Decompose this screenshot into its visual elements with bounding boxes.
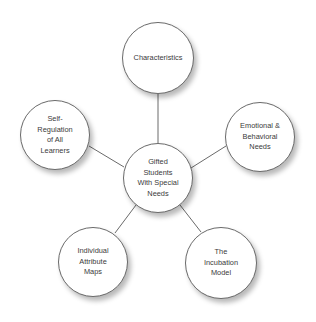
connector-individual: [115, 205, 136, 233]
node-label: Emotional & Behavioral Needs: [240, 121, 280, 153]
node-center-gifted-students: Gifted Students With Special Needs: [123, 143, 193, 213]
node-characteristics: Characteristics: [122, 22, 194, 94]
center-label: Gifted Students With Special Needs: [137, 157, 178, 199]
node-self-regulation: Self- Regulation of All Learners: [20, 100, 90, 170]
node-label: Individual Attribute Maps: [77, 246, 108, 278]
node-individual-attribute-maps: Individual Attribute Maps: [58, 227, 128, 297]
connector-self-regulation: [89, 146, 124, 167]
node-label: The Incubation Model: [204, 247, 238, 279]
node-label: Characteristics: [134, 53, 183, 64]
node-emotional-behavioral-needs: Emotional & Behavioral Needs: [225, 102, 295, 172]
concept-diagram: Characteristics Emotional & Behavioral N…: [0, 0, 316, 322]
connector-emotional: [191, 146, 226, 168]
node-incubation-model: The Incubation Model: [185, 227, 257, 299]
connector-incubation: [180, 205, 201, 232]
node-label: Self- Regulation of All Learners: [37, 114, 72, 156]
